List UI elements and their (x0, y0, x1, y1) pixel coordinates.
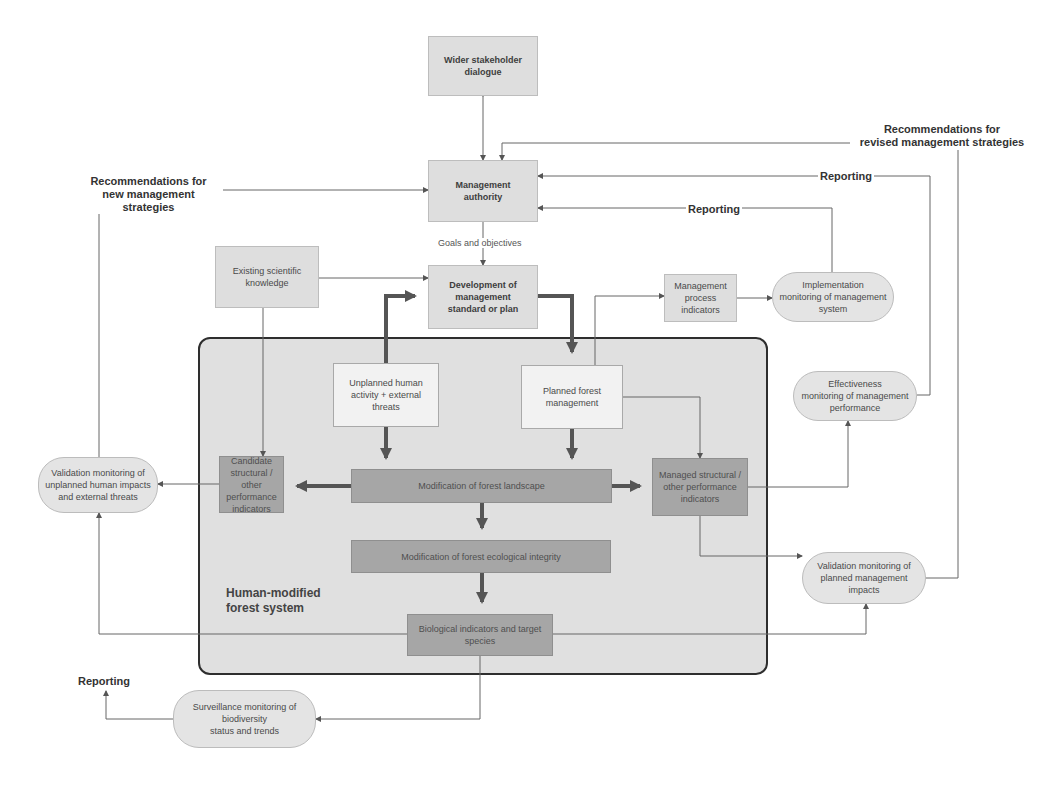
validation-monitoring-unplanned-node: Validation monitoring of unplanned human… (38, 457, 158, 513)
existing-scientific-knowledge-node: Existing scientific knowledge (215, 246, 319, 308)
goals-and-objectives-label: Goals and objectives (436, 238, 524, 248)
reporting-label-middle: Reporting (686, 203, 742, 216)
management-authority-node: Management authority (428, 160, 538, 222)
planned-forest-management-node: Planned forest management (521, 365, 623, 429)
reporting-label-top: Reporting (818, 170, 874, 183)
candidate-indicators-node: Candidate structural / other performance… (219, 456, 284, 513)
development-of-management-plan-node: Development of management standard or pl… (428, 265, 538, 329)
modification-ecological-integrity-node: Modification of forest ecological integr… (351, 540, 611, 573)
system-label: Human-modified forest system (226, 586, 321, 616)
effectiveness-monitoring-node: Effectiveness monitoring of management p… (793, 371, 917, 421)
management-process-indicators-node: Management process indicators (664, 274, 737, 322)
diagram-canvas: Human-modified forest system Wider stake… (0, 0, 1060, 785)
managed-indicators-node: Managed structural / other performance i… (652, 458, 748, 516)
recommendations-revised-strategies-label: Recommendations for revised management s… (850, 123, 1034, 149)
modification-forest-landscape-node: Modification of forest landscape (351, 469, 612, 503)
surveillance-monitoring-node: Surveillance monitoring of biodiversity … (173, 690, 316, 748)
unplanned-human-activity-node: Unplanned human activity + external thre… (333, 363, 439, 427)
wider-stakeholder-dialogue-node: Wider stakeholder dialogue (428, 36, 538, 96)
validation-monitoring-planned-node: Validation monitoring of planned managem… (802, 552, 926, 604)
reporting-label-bottom: Reporting (76, 675, 132, 688)
recommendations-new-strategies-label: Recommendations for new management strat… (74, 175, 223, 214)
implementation-monitoring-node: Implementation monitoring of management … (772, 272, 894, 322)
biological-indicators-node: Biological indicators and target species (407, 614, 553, 656)
